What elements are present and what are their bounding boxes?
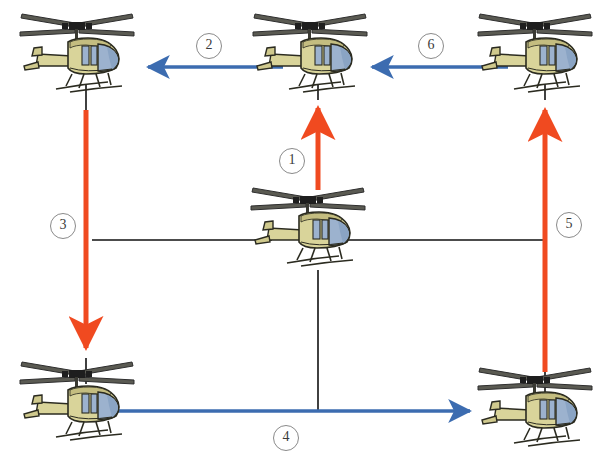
step-label-6: 6 — [418, 33, 444, 59]
helicopter-bottom-right — [478, 368, 592, 446]
diagram-canvas: 2 6 1 3 5 4 — [0, 0, 610, 461]
helicopter-top-center — [253, 14, 367, 92]
step-label-3: 3 — [50, 213, 76, 239]
helicopter-bottom-left — [20, 362, 134, 440]
helicopter-center — [251, 188, 365, 266]
helicopter-top-left — [20, 14, 134, 92]
step-label-2: 2 — [196, 33, 222, 59]
connector-layer — [0, 0, 610, 461]
step-label-1: 1 — [279, 148, 305, 174]
step-label-5: 5 — [556, 212, 582, 238]
helicopter-top-right — [478, 14, 592, 92]
step-label-4: 4 — [273, 425, 299, 451]
